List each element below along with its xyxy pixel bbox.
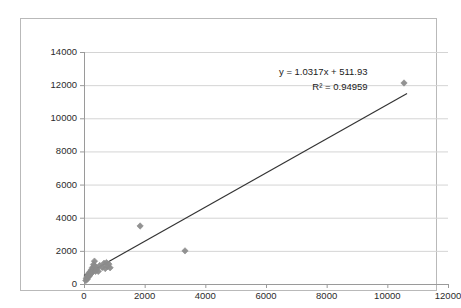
data-points: [83, 80, 408, 284]
x-axis-tick-labels: 020004000600080001000012000: [84, 291, 448, 305]
y-axis-tick-label: 10000: [51, 114, 77, 124]
x-axis-tick-label: 4000: [195, 291, 216, 301]
chart-frame: 02000400060008000100001200014000 0200040…: [20, 18, 437, 291]
y-axis-tick-label: 6000: [56, 180, 77, 190]
x-axis-tick-label: 0: [81, 291, 86, 301]
data-point-marker: [182, 248, 188, 254]
y-axis-tick-label: 2000: [56, 246, 77, 256]
plot-area: [84, 52, 448, 284]
x-axis-tick-label: 6000: [255, 291, 276, 301]
y-axis-tick-label: 8000: [56, 147, 77, 157]
y-axis-tick-label: 4000: [56, 213, 77, 223]
y-axis-ticks: [80, 53, 84, 285]
x-axis-tick-label: 2000: [134, 291, 155, 301]
x-axis-tick-label: 10000: [374, 291, 400, 301]
trendline: [84, 93, 407, 275]
trendline-r2-label: R² = 0.94959: [279, 80, 368, 95]
y-axis-tick-label: 0: [72, 279, 77, 289]
plot-canvas: [84, 52, 448, 284]
x-axis-tick-label: 8000: [316, 291, 337, 301]
gridlines: [84, 53, 448, 285]
x-axis-tick-label: 12000: [435, 291, 461, 301]
trendline-annotation: y = 1.0317x + 511.93 R² = 0.94959: [279, 65, 368, 94]
y-axis-tick-label: 14000: [51, 47, 77, 57]
y-axis-tick-labels: 02000400060008000100001200014000: [21, 52, 77, 284]
trendline-equation-label: y = 1.0317x + 511.93: [279, 65, 368, 80]
data-point-marker: [137, 223, 143, 229]
y-axis-tick-label: 12000: [51, 80, 77, 90]
